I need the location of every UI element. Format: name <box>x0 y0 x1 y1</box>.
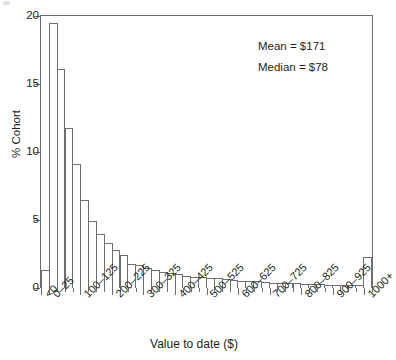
corner-artifact-mark <box>3 1 10 5</box>
y-tick-label: 5 <box>33 214 39 226</box>
y-tick-label: 10 <box>26 146 39 158</box>
y-axis-label: % Cohort <box>10 94 22 174</box>
x-axis-label: Value to date ($) <box>0 337 388 351</box>
mean-annotation: Mean = $171 <box>258 36 328 57</box>
x-axis-tick-labels: <00–25100–125200–225300–325400–425500–52… <box>0 292 388 338</box>
y-tick-label: 15 <box>26 78 39 90</box>
y-tick-label: 20 <box>26 10 39 22</box>
statistics-annotation: Mean = $171 Median = $78 <box>258 36 328 78</box>
median-annotation: Median = $78 <box>258 57 328 78</box>
